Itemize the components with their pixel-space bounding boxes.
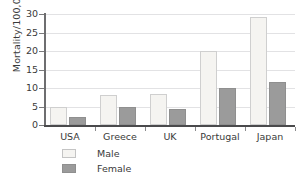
x-axis-label-japan: Japan [245,131,295,142]
x-axis-label-uk: UK [145,131,195,142]
x-axis-line [44,125,295,127]
bar-japan-male [250,17,267,125]
y-axis-tick-label: 5 [8,102,38,112]
x-axis-label-greece: Greece [95,131,145,142]
gridline [45,14,295,15]
plot-area [45,14,295,125]
mortality-bar-chart: Mortality/100,000 051015202530 USAGreece… [0,0,301,181]
bar-portugal-male [200,51,217,125]
bar-greece-male [100,95,117,125]
bar-usa-female [69,117,86,125]
bar-uk-female [169,109,186,125]
male-swatch [62,149,76,158]
y-axis-tick-label: 20 [8,46,38,56]
y-axis-tick-label: 0 [8,120,38,130]
bar-uk-male [150,94,167,125]
y-axis-line [44,13,46,126]
y-axis-tick-label: 30 [8,9,38,19]
bar-japan-female [269,82,286,125]
bar-usa-male [50,107,67,125]
bar-greece-female [119,107,136,125]
x-axis-label-portugal: Portugal [195,131,245,142]
y-axis-tick-label: 25 [8,28,38,38]
female-swatch [62,164,76,173]
chart-legend: MaleFemale [62,147,131,177]
legend-item-female: Female [62,162,131,174]
x-axis-label-usa: USA [45,131,95,142]
legend-item-male: Male [62,147,131,159]
y-axis-tick-label: 10 [8,83,38,93]
x-axis-tick [295,127,296,131]
legend-label: Male [97,148,120,159]
bar-portugal-female [219,88,236,125]
y-axis-tick-label: 15 [8,65,38,75]
legend-label: Female [97,163,131,174]
